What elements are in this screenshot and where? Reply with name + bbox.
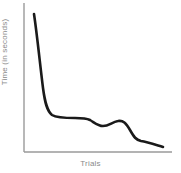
y-axis-label-container: Time (in seconds) bbox=[0, 12, 12, 92]
y-axis-label: Time (in seconds) bbox=[0, 12, 9, 92]
x-axis-label: Trials bbox=[0, 159, 181, 168]
learning-curve-chart: Time (in seconds) Trials bbox=[0, 0, 181, 173]
learning-curve-line bbox=[34, 14, 163, 147]
chart-plot-area bbox=[0, 0, 181, 173]
